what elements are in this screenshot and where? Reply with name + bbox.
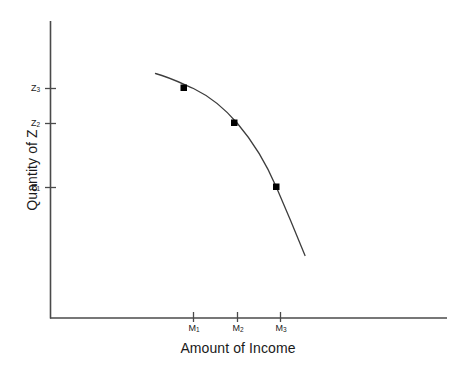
x-tick-label-m3: M3 — [269, 323, 293, 333]
plot-area — [0, 0, 457, 366]
y-axis-title: Quantity of Z — [24, 100, 40, 240]
chart-figure: Z3 Z2 Z1 M1 M2 M3 Quantity of Z Amount o… — [0, 0, 457, 366]
x-axis-ticks — [194, 312, 281, 322]
data-curve — [156, 74, 306, 256]
x-tick-label-m1: M1 — [182, 323, 206, 333]
x-axis-title: Amount of Income — [148, 340, 328, 356]
y-tick-label-z3: Z3 — [18, 83, 40, 93]
x-tick-label-m2: M2 — [226, 323, 250, 333]
data-point-m3-z1 — [273, 184, 280, 191]
data-point-m1-z3 — [181, 85, 188, 92]
data-point-m2-z2 — [231, 120, 238, 127]
data-point-markers — [181, 85, 280, 191]
